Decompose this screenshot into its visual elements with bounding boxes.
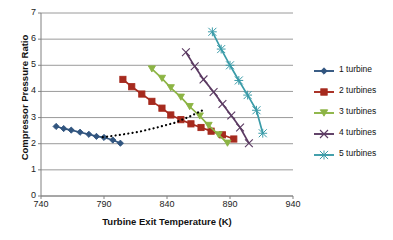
- legend-marker-triangle-icon: [313, 105, 335, 117]
- data-series-group: [53, 27, 267, 147]
- legend-label: 3 turbines: [339, 106, 376, 116]
- legend-item-2-turbine[interactable]: 2 turbines: [313, 79, 393, 100]
- legend-marker-cross-icon: [313, 126, 335, 138]
- series-1-turbine: [53, 123, 123, 146]
- series-5-turbine: [208, 27, 267, 137]
- legend-label: 2 turbines: [339, 85, 376, 95]
- gridlines: [41, 13, 293, 196]
- legend-label: 5 turbines: [339, 148, 376, 158]
- chart-legend: 1 turbine2 turbines3 turbines4 turbines5…: [313, 58, 393, 163]
- legend-item-5-turbine[interactable]: 5 turbines: [313, 142, 393, 163]
- legend-label: 4 turbines: [339, 127, 376, 137]
- chart-container: Compressor Pressure Ratio 01234567 74079…: [0, 0, 393, 240]
- legend-label: 1 turbine: [339, 64, 372, 74]
- legend-item-3-turbine[interactable]: 3 turbines: [313, 100, 393, 121]
- legend-item-4-turbine[interactable]: 4 turbines: [313, 121, 393, 142]
- legend-item-1-turbine[interactable]: 1 turbine: [313, 58, 393, 79]
- legend-marker-diamond-icon: [313, 63, 335, 75]
- legend-marker-square-icon: [313, 84, 335, 96]
- legend-marker-star-icon: [313, 147, 335, 159]
